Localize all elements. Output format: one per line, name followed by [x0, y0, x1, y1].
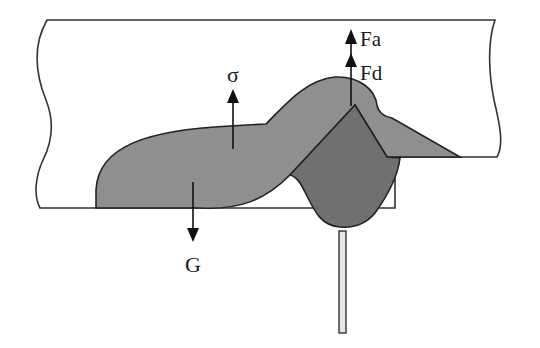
arrow-head-icon	[187, 228, 199, 242]
fa-label: Fa	[360, 27, 382, 51]
weld-pool-diagram: σ G Fa Fd	[0, 0, 540, 348]
fd-label: Fd	[360, 61, 383, 85]
sigma-label: σ	[227, 62, 239, 87]
gravity-label: G	[185, 252, 201, 277]
diagram-svg: σ G Fa Fd	[0, 0, 540, 348]
electrode-rod	[339, 231, 346, 333]
